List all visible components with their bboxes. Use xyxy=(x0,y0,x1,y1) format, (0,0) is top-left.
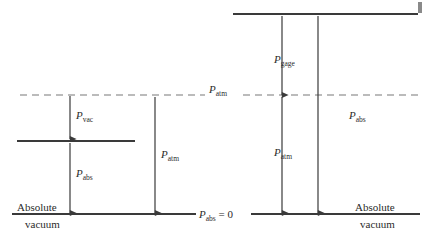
p-abs-left-label: Pabs xyxy=(75,167,93,182)
p-abs-right-label: Pabs xyxy=(348,109,366,124)
vacuum-right-label: vacuum xyxy=(360,218,395,230)
vacuum-left-label: vacuum xyxy=(25,218,60,230)
p-atm-line-label: Patm xyxy=(208,83,227,98)
p-abs-zero-label: Pabs = 0 xyxy=(198,208,233,223)
p-gage-label: Pgage xyxy=(273,53,296,68)
p-atm-left-label: Patm xyxy=(160,148,179,163)
pressure-diagram-svg: Pvac Pabs Patm Patm Pgage Patm Pabs Pabs… xyxy=(0,0,425,245)
absolute-right-label: Absolute xyxy=(355,201,395,213)
pressure-diagram-figure: Pvac Pabs Patm Patm Pgage Patm Pabs Pabs… xyxy=(0,0,425,245)
p-vac-label: Pvac xyxy=(75,109,94,124)
page-corner-mark xyxy=(418,2,422,13)
absolute-left-label: Absolute xyxy=(17,201,57,213)
